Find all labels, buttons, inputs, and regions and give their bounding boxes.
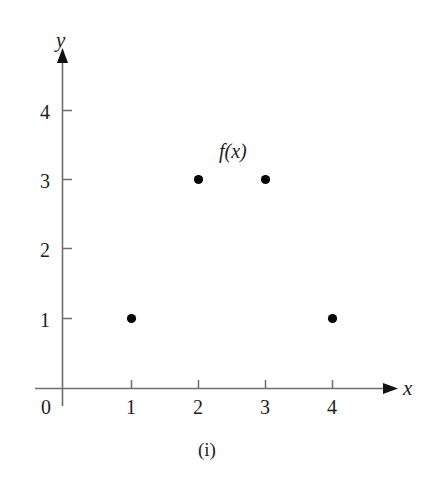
figure-caption: (i) <box>198 440 216 459</box>
origin-tick-label: 0 <box>33 397 59 417</box>
series-annotation-fx: f(x) <box>219 141 247 161</box>
x-tick-label-3: 3 <box>252 397 278 417</box>
y-tick-label-2: 2 <box>24 240 50 260</box>
x-axis-arrowhead <box>383 383 398 394</box>
x-tick-label-4: 4 <box>319 397 345 417</box>
y-axis-label: y <box>56 30 65 51</box>
data-point <box>261 175 270 184</box>
y-tick-label-3: 3 <box>24 171 50 191</box>
plot-canvas <box>0 0 429 494</box>
y-tick-label-1: 1 <box>24 310 50 330</box>
y-tick-label-4: 4 <box>24 102 50 122</box>
figure-container: y x 0 1 2 3 4 1 2 3 4 f(x) (i) <box>0 0 429 494</box>
data-point <box>127 314 136 323</box>
x-axis-label: x <box>403 378 412 399</box>
x-tick-label-1: 1 <box>118 397 144 417</box>
data-point <box>328 314 337 323</box>
x-tick-label-2: 2 <box>185 397 211 417</box>
data-point <box>194 175 203 184</box>
